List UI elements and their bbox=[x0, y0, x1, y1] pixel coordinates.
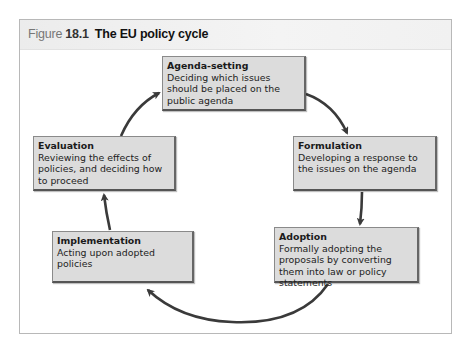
arrow-agenda-to-formulation bbox=[306, 94, 347, 133]
stage-title: Adoption bbox=[279, 231, 413, 243]
stage-title: Formulation bbox=[298, 140, 431, 152]
arrow-evaluation-to-agenda bbox=[121, 93, 159, 136]
stage-title: Evaluation bbox=[38, 140, 170, 152]
arrow-implementation-to-evaluation bbox=[104, 195, 110, 230]
stage-adoption: Adoption Formally adopting the proposals… bbox=[274, 227, 419, 283]
stage-agenda-setting: Agenda-setting Deciding which issues sho… bbox=[162, 56, 306, 111]
stage-description: Formally adopting the proposals by conve… bbox=[279, 243, 413, 289]
stage-title: Agenda-setting bbox=[167, 60, 300, 72]
stage-description: Developing a response to the issues on t… bbox=[298, 152, 431, 175]
stage-implementation: Implementation Acting upon adopted polic… bbox=[52, 231, 194, 283]
arrow-adoption-to-implementation bbox=[148, 284, 328, 322]
arrow-formulation-to-adoption bbox=[360, 192, 362, 224]
stage-title: Implementation bbox=[57, 235, 188, 247]
stage-evaluation: Evaluation Reviewing the effects of poli… bbox=[33, 136, 176, 191]
stage-formulation: Formulation Developing a response to the… bbox=[293, 136, 437, 191]
stage-description: Acting upon adopted policies bbox=[57, 247, 188, 270]
stage-description: Deciding which issues should be placed o… bbox=[167, 72, 300, 107]
stage-description: Reviewing the effects of policies, and d… bbox=[38, 152, 170, 187]
